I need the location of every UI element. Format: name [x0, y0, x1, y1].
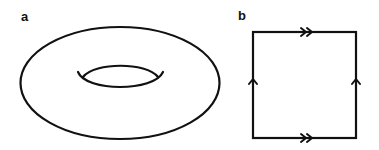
- torus-hole-upper-arc: [83, 66, 158, 77]
- torus-outer-edge: [21, 27, 220, 139]
- torus-hole-lower-arc: [78, 72, 163, 87]
- square-outline: [253, 32, 356, 138]
- square-identification-diagram: [253, 32, 356, 138]
- torus-diagram: [21, 27, 220, 139]
- figure-canvas: [0, 0, 379, 150]
